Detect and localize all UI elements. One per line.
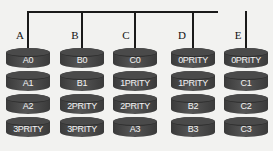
disk-label: 1PRITY — [171, 78, 215, 89]
disk-stack-d: 0PRITY 1PRITY B2 B3 — [171, 48, 215, 140]
disk-label: C3 — [224, 124, 268, 135]
disk-icon: C2 — [224, 94, 268, 114]
disk-label: B1 — [60, 78, 104, 89]
disk-label: A3 — [113, 124, 157, 135]
disk-icon: B2 — [171, 94, 215, 114]
disk-icon: 3PRITY — [60, 117, 104, 137]
bus-drop-c — [134, 11, 136, 50]
disk-label: A0 — [6, 55, 50, 66]
column-label-e: E — [232, 29, 244, 41]
disk-label: 3PRITY — [6, 124, 50, 135]
disk-label: C0 — [113, 55, 157, 66]
disk-icon: 0PRITY — [224, 48, 268, 68]
disk-label: C1 — [224, 78, 268, 89]
disk-label: C2 — [224, 101, 268, 112]
bus-line-horizontal — [117, 11, 218, 13]
disk-label: 0PRITY — [171, 55, 215, 66]
disk-stack-e: 0PRITY C1 C2 C3 — [224, 48, 268, 140]
disk-icon: A1 — [6, 71, 50, 91]
disk-label: 2PRITY — [60, 101, 104, 112]
disk-icon: A3 — [113, 117, 157, 137]
disk-label: B2 — [171, 101, 215, 112]
disk-label: 2PRITY — [113, 101, 157, 112]
disk-label: B0 — [60, 55, 104, 66]
disk-label: 1PRITY — [113, 78, 157, 89]
disk-icon: B3 — [171, 117, 215, 137]
column-label-d: D — [176, 29, 188, 41]
disk-icon: C1 — [224, 71, 268, 91]
disk-icon: B1 — [60, 71, 104, 91]
disk-label: 0PRITY — [224, 55, 268, 66]
disk-icon: 0PRITY — [171, 48, 215, 68]
disk-icon: A2 — [6, 94, 50, 114]
disk-icon: 3PRITY — [6, 117, 50, 137]
disk-stack-b: B0 B1 2PRITY 3PRITY — [60, 48, 104, 140]
disk-icon: C0 — [113, 48, 157, 68]
disk-icon: 1PRITY — [171, 71, 215, 91]
disk-stack-a: A0 A1 A2 3PRITY — [6, 48, 50, 140]
column-label-a: A — [14, 29, 26, 41]
disk-label: 3PRITY — [60, 124, 104, 135]
column-label-b: B — [69, 29, 81, 41]
bus-drop-a — [27, 11, 29, 50]
disk-icon: 2PRITY — [113, 94, 157, 114]
bus-drop-b — [81, 11, 83, 50]
bus-drop-e — [245, 11, 247, 50]
disk-icon: A0 — [6, 48, 50, 68]
disk-icon: 1PRITY — [113, 71, 157, 91]
bus-line-horizontal — [27, 11, 118, 13]
disk-icon: B0 — [60, 48, 104, 68]
disk-label: A2 — [6, 101, 50, 112]
bus-drop-d — [192, 11, 194, 50]
disk-icon: 2PRITY — [60, 94, 104, 114]
disk-label: A1 — [6, 78, 50, 89]
disk-label: B3 — [171, 124, 215, 135]
column-label-c: C — [120, 29, 132, 41]
disk-icon: C3 — [224, 117, 268, 137]
disk-stack-c: C0 1PRITY 2PRITY A3 — [113, 48, 157, 140]
